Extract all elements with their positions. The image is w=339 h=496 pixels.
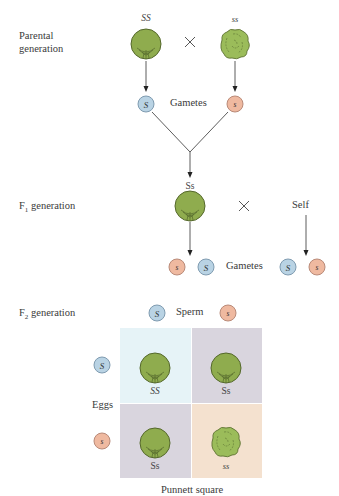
sperm-s: s [220, 305, 237, 322]
f2-generation-label: F2 generation [19, 306, 75, 324]
eggs-label: Eggs [92, 399, 113, 410]
parental-generation-label: Parental generation [19, 29, 63, 55]
f1-gamete-right-s: s [309, 259, 326, 276]
f1-gamete-left-s: s [169, 259, 186, 276]
sperm-S: S [149, 305, 166, 322]
parent-gamete-S: S [138, 96, 155, 113]
sperm-label: Sperm [176, 306, 203, 317]
f1-label-suffix: generation [28, 200, 75, 211]
parent-left-genotype: SS [141, 13, 151, 23]
f1-gamete-left-S: S [198, 259, 215, 276]
parental-gametes-label: Gametes [170, 97, 207, 108]
parent-gamete-s: s [227, 96, 244, 113]
punnett-genotype-ss: ss [223, 461, 230, 471]
egg-S: S [94, 357, 111, 374]
f1-gamete-right-S: S [280, 259, 297, 276]
f1-genotype: Ss [186, 181, 195, 191]
parent-right-genotype: ss [232, 14, 239, 24]
parental-label-line2: generation [19, 42, 63, 55]
f2-label-suffix: generation [28, 307, 75, 318]
f2-pea-Ss-bottom [140, 428, 170, 458]
parent-smooth-pea [131, 29, 161, 59]
f1-gametes-label: Gametes [226, 260, 263, 271]
f2-pea-Ss-top [211, 353, 241, 383]
punnett-genotype-Ss-bottom: Ss [151, 461, 160, 471]
self-label: Self [292, 199, 309, 210]
pea-drawings [0, 0, 339, 496]
f2-pea-ss [212, 427, 240, 456]
punnett-genotype-Ss-top: Ss [222, 386, 231, 396]
parent-wrinkled-pea [221, 29, 249, 58]
parental-label-line1: Parental [19, 29, 63, 42]
f1-smooth-pea [175, 191, 205, 221]
punnett-genotype-SS: SS [150, 386, 160, 396]
f1-generation-label: F1 generation [19, 199, 75, 217]
egg-s: s [94, 433, 111, 450]
punnett-square-caption: Punnett square [161, 484, 223, 495]
f2-pea-SS [140, 353, 170, 383]
